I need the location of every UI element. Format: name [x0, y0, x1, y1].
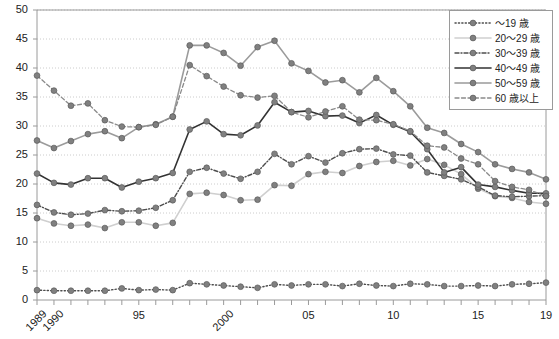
- data-point: [492, 193, 498, 199]
- data-point: [85, 131, 91, 137]
- data-point: [68, 103, 74, 109]
- data-point: [119, 185, 125, 191]
- data-point: [221, 131, 227, 137]
- legend-item-a50[interactable]: 50～59 歳: [453, 75, 548, 90]
- data-point: [255, 123, 261, 129]
- y-axis-tick-label: 45: [4, 33, 28, 44]
- data-point: [340, 113, 346, 119]
- data-point: [153, 205, 159, 211]
- data-point: [255, 95, 261, 101]
- data-point: [323, 169, 329, 175]
- legend-item-a60[interactable]: 60 歳以上: [453, 90, 548, 105]
- data-point: [441, 130, 447, 136]
- data-point: [170, 287, 176, 293]
- data-point: [458, 176, 464, 182]
- data-point: [204, 118, 210, 124]
- data-point: [526, 187, 532, 193]
- data-point: [272, 38, 278, 44]
- y-axis-tick-label: 5: [4, 265, 28, 276]
- data-point: [187, 62, 193, 68]
- data-point: [255, 285, 261, 291]
- data-point: [272, 281, 278, 287]
- y-axis-tick-label: 0: [4, 294, 28, 305]
- data-point: [424, 281, 430, 287]
- data-point: [221, 283, 227, 289]
- y-axis-tick-label: 30: [4, 120, 28, 131]
- data-point: [102, 128, 108, 134]
- data-point: [136, 124, 142, 130]
- data-point: [136, 179, 142, 185]
- data-point: [424, 156, 430, 162]
- data-point: [306, 114, 312, 120]
- y-axis-tick-label: 25: [4, 149, 28, 160]
- data-point: [34, 215, 40, 221]
- data-point: [204, 281, 210, 287]
- y-axis-tick-label: 20: [4, 178, 28, 189]
- legend-item-a20[interactable]: 20～29 歳: [453, 30, 548, 45]
- data-point: [289, 283, 295, 289]
- data-point: [34, 138, 40, 144]
- data-point: [85, 288, 91, 294]
- data-point: [458, 156, 464, 162]
- data-point: [68, 223, 74, 229]
- data-point: [238, 176, 244, 182]
- data-point: [119, 286, 125, 292]
- data-point: [390, 152, 396, 158]
- data-point: [492, 161, 498, 167]
- legend-item-a30[interactable]: 30～39 歳: [453, 45, 548, 60]
- data-point: [306, 108, 312, 114]
- data-point: [34, 73, 40, 79]
- data-point: [289, 183, 295, 189]
- data-point: [289, 109, 295, 115]
- legend-item-label: 20～29 歳: [493, 30, 540, 45]
- data-point: [187, 127, 193, 133]
- data-point: [356, 163, 362, 169]
- data-point: [170, 220, 176, 226]
- data-point: [390, 121, 396, 127]
- legend: ～19 歳20～29 歳30～39 歳40～49 歳50～59 歳60 歳以上: [449, 10, 553, 110]
- data-point: [356, 281, 362, 287]
- data-point: [526, 199, 532, 205]
- data-point: [475, 283, 481, 289]
- data-point: [272, 182, 278, 188]
- data-point: [407, 153, 413, 159]
- data-point: [306, 281, 312, 287]
- data-point: [204, 165, 210, 171]
- data-point: [85, 100, 91, 106]
- data-point: [51, 288, 57, 294]
- legend-item-a40[interactable]: 40～49 歳: [453, 60, 548, 75]
- data-point: [221, 50, 227, 56]
- data-point: [136, 208, 142, 214]
- data-point: [136, 219, 142, 225]
- data-point: [187, 280, 193, 286]
- data-point: [373, 159, 379, 165]
- data-point: [204, 73, 210, 79]
- data-point: [323, 281, 329, 287]
- legend-item-label: 30～39 歳: [493, 45, 540, 60]
- data-point: [102, 175, 108, 181]
- data-point: [34, 171, 40, 177]
- data-point: [543, 201, 549, 207]
- legend-item-u19[interactable]: ～19 歳: [453, 15, 548, 30]
- data-point: [509, 184, 515, 190]
- data-point: [187, 169, 193, 175]
- data-point: [170, 114, 176, 120]
- data-point: [424, 125, 430, 131]
- data-point: [492, 283, 498, 289]
- y-axis-tick-label: 15: [4, 207, 28, 218]
- dash-dot-line-marker-icon: [453, 47, 493, 59]
- series-line: [37, 159, 546, 228]
- data-point: [543, 280, 549, 286]
- data-point: [136, 287, 142, 293]
- data-point: [204, 190, 210, 196]
- data-point: [85, 222, 91, 228]
- data-point: [255, 197, 261, 203]
- data-point: [356, 146, 362, 152]
- data-point: [407, 163, 413, 169]
- data-point: [340, 77, 346, 83]
- data-point: [492, 178, 498, 184]
- data-point: [238, 132, 244, 138]
- data-point: [255, 169, 261, 175]
- data-point: [509, 281, 515, 287]
- data-point: [102, 207, 108, 213]
